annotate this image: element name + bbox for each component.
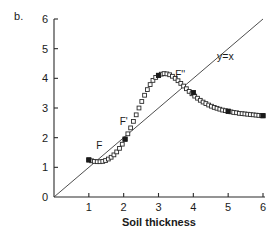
data-point-marker-filled bbox=[123, 137, 127, 141]
data-point-marker bbox=[134, 113, 138, 117]
data-point-marker bbox=[145, 88, 149, 92]
data-point-marker bbox=[140, 100, 144, 104]
y-tick-label: 3 bbox=[42, 102, 48, 114]
annotation-F: F bbox=[96, 140, 102, 151]
x-tick-label: 5 bbox=[225, 201, 231, 213]
y-tick-label: 4 bbox=[42, 72, 48, 84]
identity-line bbox=[54, 19, 263, 197]
x-tick-label: 0 bbox=[42, 191, 48, 203]
data-point-marker-filled bbox=[226, 109, 230, 113]
data-point-marker-filled bbox=[87, 158, 91, 162]
identity-reference-line bbox=[54, 19, 263, 197]
data-point-marker bbox=[143, 93, 147, 97]
data-point-marker bbox=[129, 126, 133, 130]
data-point-marker bbox=[126, 132, 130, 136]
data-point-marker bbox=[148, 83, 152, 87]
x-tick-label: 1 bbox=[86, 201, 92, 213]
data-point-marker-filled bbox=[261, 114, 265, 118]
x-tick-label: 6 bbox=[260, 201, 266, 213]
y-tick-label: 6 bbox=[42, 13, 48, 25]
y-tick-label: 5 bbox=[42, 43, 48, 55]
y-tick-label: 2 bbox=[42, 132, 48, 144]
annotation-Fpp: F'' bbox=[175, 69, 185, 80]
x-tick-label: 3 bbox=[155, 201, 161, 213]
data-point-marker bbox=[120, 142, 124, 146]
chart-panel: b. 0123456123456 FF'F''y=x Soil thicknes… bbox=[0, 0, 280, 233]
data-point-marker bbox=[118, 146, 122, 150]
data-point-marker-filled bbox=[191, 90, 195, 94]
data-series bbox=[87, 72, 265, 164]
data-point-marker bbox=[132, 119, 136, 123]
data-point-marker-filled bbox=[156, 73, 160, 77]
data-point-marker bbox=[137, 106, 141, 110]
annotation-Fp: F' bbox=[120, 116, 128, 127]
x-axis-title: Soil thickness bbox=[122, 216, 196, 228]
series-0 bbox=[87, 72, 265, 164]
x-tick-label: 2 bbox=[121, 201, 127, 213]
annotation-yeqx: y=x bbox=[217, 50, 234, 62]
series-1 bbox=[87, 73, 265, 162]
chart-annotations: FF'F''y=x bbox=[96, 50, 234, 151]
y-tick-label: 1 bbox=[42, 161, 48, 173]
x-tick-label: 4 bbox=[190, 201, 196, 213]
scatter-plot: 0123456123456 FF'F''y=x Soil thickness bbox=[0, 0, 280, 233]
